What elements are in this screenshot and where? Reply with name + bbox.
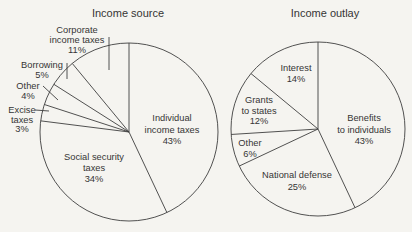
slice-boundary — [44, 104, 129, 132]
slice-label-social-security-taxes: Social securitytaxes34% — [64, 152, 124, 184]
slice-label-grants-to-states: Grantsto states12% — [241, 95, 276, 126]
pie-income-outlay: Benefitsto individuals43%National defens… — [231, 42, 405, 216]
slice-label-interest: Interest14% — [280, 63, 311, 84]
slice-label-national-defense: National defense25% — [262, 170, 332, 192]
label-leader-line — [43, 86, 58, 100]
pie-charts-figure: Income source Individualincome taxes43%S… — [0, 0, 412, 232]
pie-income-source: Individualincome taxes43%Social security… — [8, 25, 218, 221]
slice-label-borrowing: Borrowing5% — [21, 60, 63, 80]
chart-title-income-source: Income source — [92, 7, 164, 19]
slice-label-corporate-income-taxes: Corporateincome taxes11% — [50, 25, 105, 55]
slice-boundary — [72, 63, 129, 132]
slice-boundary — [54, 84, 129, 132]
slice-label-excise-taxes: Excisetaxes3% — [8, 105, 35, 134]
slice-label-individual-income-taxes: Individualincome taxes43% — [145, 113, 200, 146]
slice-boundary — [129, 132, 167, 213]
chart-title-income-outlay: Income outlay — [291, 7, 360, 19]
slice-boundary — [318, 129, 355, 208]
pie-charts-canvas: Income source Individualincome taxes43%S… — [0, 0, 412, 232]
chart-income-source: Income source Individualincome taxes43%S… — [8, 7, 218, 221]
slice-boundary — [231, 129, 318, 134]
slice-label-other: Other6% — [238, 138, 261, 159]
chart-income-outlay: Income outlay Benefitsto individuals43%N… — [231, 7, 405, 216]
label-leader-line — [35, 110, 49, 111]
slice-label-other: Other4% — [16, 81, 39, 101]
slice-label-benefits-to-individuals: Benefitsto individuals43% — [337, 113, 391, 146]
slice-boundary — [41, 121, 129, 132]
